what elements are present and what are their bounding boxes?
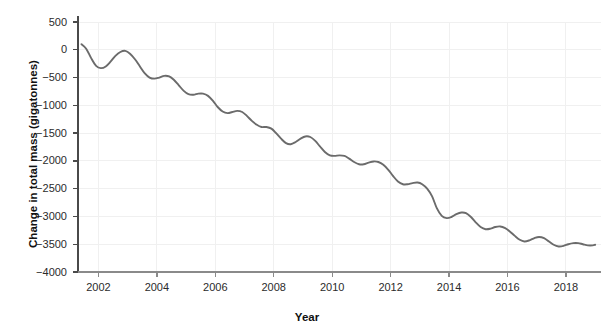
y-tick-label: 500	[11, 17, 67, 28]
x-tick-label: 2006	[185, 282, 245, 293]
y-axis-title: Change in total mass (gigatonnes)	[27, 29, 39, 279]
x-axis-title: Year	[0, 311, 614, 323]
y-tick-label: −3000	[11, 211, 67, 222]
x-tick-label: 2008	[244, 282, 304, 293]
axis-layer	[73, 16, 601, 277]
x-tick-label: 2004	[127, 282, 187, 293]
x-tick-label: 2018	[536, 282, 596, 293]
x-tick-label: 2012	[361, 282, 421, 293]
x-tick-label: 2014	[419, 282, 479, 293]
grid-layer	[78, 22, 601, 272]
x-tick-label: 2010	[302, 282, 362, 293]
x-tick-label: 2016	[478, 282, 538, 293]
y-tick-label: −500	[11, 72, 67, 83]
y-tick-label: −3500	[11, 239, 67, 250]
y-tick-label: −2000	[11, 155, 67, 166]
x-tick-label: 2002	[68, 282, 128, 293]
y-tick-label: 0	[11, 44, 67, 55]
chart-root: 5000−500−1000−1500−2000−2500−3000−3500−4…	[0, 0, 614, 336]
y-tick-label: −2500	[11, 183, 67, 194]
y-tick-label: −4000	[11, 267, 67, 278]
y-tick-label: −1000	[11, 100, 67, 111]
y-tick-label: −1500	[11, 128, 67, 139]
